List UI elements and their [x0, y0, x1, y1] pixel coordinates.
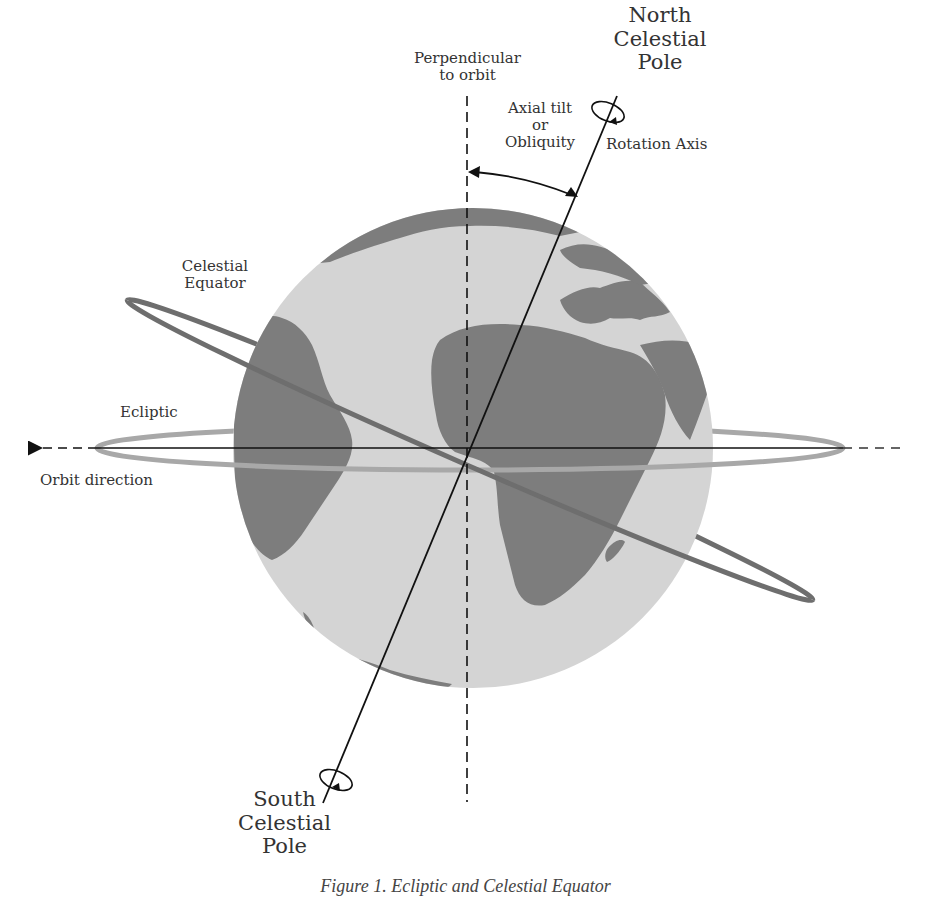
- ecliptic-label: Ecliptic: [120, 404, 220, 421]
- rotation-axis-label: Rotation Axis: [606, 136, 746, 153]
- globe: [233, 208, 713, 694]
- perpendicular-label: Perpendicular to orbit: [400, 50, 535, 84]
- diagram-canvas: [0, 0, 931, 897]
- north-pole-label: North Celestial Pole: [600, 4, 720, 75]
- axial-tilt-label: Axial tilt or Obliquity: [485, 100, 595, 150]
- ecliptic-diagram: Perpendicular to orbit North Celestial P…: [0, 0, 931, 897]
- orbit-direction-label: Orbit direction: [40, 472, 200, 489]
- axial-tilt-arc: [468, 166, 578, 197]
- south-pole-label: South Celestial Pole: [232, 788, 337, 859]
- figure-caption: Figure 1. Ecliptic and Celestial Equator: [0, 876, 931, 897]
- celestial-equator-label: Celestial Equator: [165, 258, 265, 292]
